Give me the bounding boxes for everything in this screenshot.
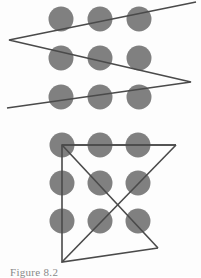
dot [127,7,152,32]
dot [127,46,152,71]
bottom-figure-segment-2 [62,145,158,248]
dot [88,85,113,110]
dot [88,171,113,196]
dot [88,209,113,234]
dot [126,209,151,234]
top-figure-group [7,2,196,110]
bottom-figure-group [50,133,177,263]
dot [49,85,74,110]
dot [88,46,113,71]
figure-caption: Figure 8.2 [10,266,58,278]
